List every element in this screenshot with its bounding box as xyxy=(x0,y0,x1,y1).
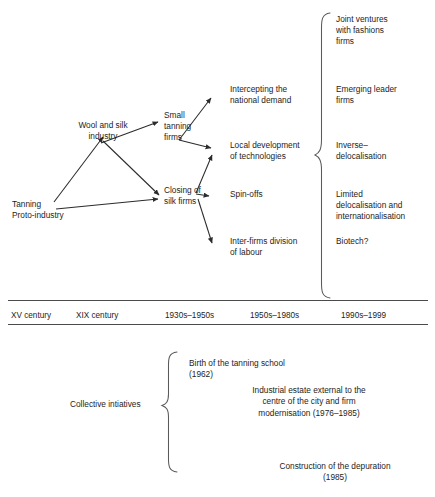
collective-item-depuration: Construction of the depuration (1985) xyxy=(239,461,431,484)
node-spin-offs: Spin-offs xyxy=(230,189,300,200)
node-closing-of-silk-firms: Closing of silk firms xyxy=(164,185,226,207)
outcome-inverse-delocalisation: Inverse– delocalisation xyxy=(336,140,430,162)
node-small-tanning-firms: Small tanning firms xyxy=(164,110,222,144)
diagram-canvas: Tanning Proto-industry Wool and silk ind… xyxy=(0,0,435,497)
collective-brace xyxy=(162,352,177,472)
timeline-tick-1930s-1950s: 1930s–1950s xyxy=(165,310,214,321)
node-inter-firms-division-of-labour: Inter-firms division of labour xyxy=(230,236,326,258)
arrow-proto-to-wool xyxy=(54,137,103,202)
node-wool-and-silk-industry: Wool and silk industry xyxy=(57,120,149,142)
outcome-joint-ventures: Joint ventures with fashions firms xyxy=(336,14,430,48)
node-tanning-proto-industry: Tanning Proto-industry xyxy=(12,199,98,221)
node-local-development-of-technologies: Local development of technologies xyxy=(230,140,326,162)
timeline-tick-xix-century: XIX century xyxy=(76,310,118,321)
node-intercepting-national-demand: Intercepting the national demand xyxy=(230,84,322,106)
collective-item-tanning-school: Birth of the tanning school (1962) xyxy=(189,358,364,381)
diagram-vector-layer xyxy=(0,0,435,497)
timeline-tick-1950s-1980s: 1950s–1980s xyxy=(250,310,299,321)
collective-initiatives-label: Collective intiatives xyxy=(70,399,141,410)
arrow-wool-to-closing xyxy=(103,141,159,195)
outcome-emerging-leader-firms: Emerging leader firms xyxy=(336,84,430,106)
timeline-tick-xv-century: XV century xyxy=(11,310,51,321)
outcome-limited-delocalisation: Limited delocalisation and international… xyxy=(336,189,434,223)
collective-item-industrial-estate: Industrial estate external to the centre… xyxy=(214,385,404,419)
outcome-biotech: Biotech? xyxy=(336,236,430,247)
timeline-tick-1990s-1999: 1990s–1999 xyxy=(341,310,386,321)
